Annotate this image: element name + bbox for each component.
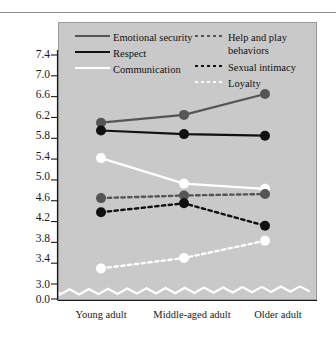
- axis-break-squiggle: [60, 286, 310, 294]
- data-point-loyalty-young-adult: [96, 263, 106, 273]
- data-point-loyalty-middle-aged-adult: [179, 253, 189, 263]
- series-respect: [96, 126, 270, 141]
- data-point-respect-older-adult: [260, 131, 270, 141]
- series-layer: [96, 89, 270, 273]
- y-axis-break-line: [60, 286, 310, 294]
- data-point-emotional-security-middle-aged-adult: [179, 110, 189, 120]
- series-emotional-security: [96, 89, 270, 128]
- series-loyalty: [96, 236, 270, 274]
- data-point-communication-young-adult: [96, 153, 106, 163]
- data-point-sexual-intimacy-older-adult: [260, 221, 270, 231]
- data-point-sexual-intimacy-middle-aged-adult: [179, 198, 189, 208]
- data-point-help-and-play-behaviors-older-adult: [260, 189, 270, 199]
- data-point-communication-middle-aged-adult: [179, 179, 189, 189]
- data-point-loyalty-older-adult: [260, 236, 270, 246]
- data-point-respect-young-adult: [96, 126, 106, 136]
- chart-figure: 7.4 7.0 6.6 6.2 5.8 5.4 5.0 4.6 4.2 3.8 …: [0, 0, 336, 341]
- data-point-help-and-play-behaviors-young-adult: [96, 193, 106, 203]
- data-point-respect-middle-aged-adult: [179, 129, 189, 139]
- series-sexual-intimacy: [96, 198, 270, 230]
- legend-swatch-layer: [75, 36, 225, 82]
- chart-svg: [0, 0, 336, 341]
- data-point-emotional-security-older-adult: [260, 89, 270, 99]
- data-point-sexual-intimacy-young-adult: [96, 207, 106, 217]
- series-communication: [96, 153, 270, 194]
